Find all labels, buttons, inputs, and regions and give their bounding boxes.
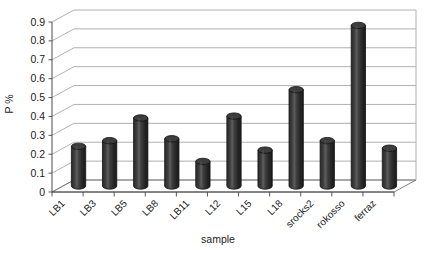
bar xyxy=(351,22,365,189)
bar-top-cap xyxy=(102,137,116,143)
x-tick-label: L12 xyxy=(203,197,223,217)
bar xyxy=(289,86,303,189)
x-tick-label: rokosso xyxy=(314,197,347,230)
bar-top-cap xyxy=(382,145,396,151)
bar-body xyxy=(102,141,116,190)
y-axis xyxy=(49,22,53,192)
x-tick-label: LB1 xyxy=(47,197,68,218)
bar-highlight xyxy=(76,146,78,186)
x-tick-label: ferraz xyxy=(352,198,378,224)
x-tick-labels: LB1LB3LB5LB8LB11L12L15L18srocks2rokossof… xyxy=(47,197,378,230)
bar-highlight xyxy=(107,141,109,186)
y-tick-label: 0.4 xyxy=(30,110,45,122)
bar-highlight xyxy=(200,161,202,186)
bar-top-cap xyxy=(258,147,272,153)
x-tick-label: L15 xyxy=(234,197,254,217)
bars xyxy=(71,22,396,189)
bar-body xyxy=(227,116,241,189)
bar-body xyxy=(351,25,365,189)
bar-body xyxy=(289,90,303,190)
bar-highlight xyxy=(231,116,233,186)
x-tick-label: LB8 xyxy=(140,197,161,218)
bar-top-cap xyxy=(196,158,210,164)
bar-highlight xyxy=(293,90,295,186)
y-tick-label: 0.6 xyxy=(30,72,45,84)
bar-highlight xyxy=(262,150,264,186)
bar-body xyxy=(382,148,396,189)
bar xyxy=(320,137,334,189)
y-tick-label: 0.3 xyxy=(30,129,45,141)
bar-top-cap xyxy=(289,86,303,92)
bar xyxy=(382,145,396,189)
gridline xyxy=(52,10,416,22)
y-tick-label: 0.5 xyxy=(30,91,45,103)
bar-body xyxy=(71,146,85,189)
bar-highlight xyxy=(387,148,389,186)
y-tick-label: 0.9 xyxy=(30,16,45,28)
bar-highlight xyxy=(169,139,171,186)
y-tick-label: 0 xyxy=(39,186,45,198)
x-tick-label: LB11 xyxy=(168,197,192,221)
y-tick-label: 0.2 xyxy=(30,148,45,160)
x-tick-label: srocks2 xyxy=(284,197,316,229)
x-tick-label: L18 xyxy=(265,197,285,217)
bar xyxy=(134,115,148,189)
bar-highlight xyxy=(356,25,358,186)
y-tick-label: 0.7 xyxy=(30,53,45,65)
bar-top-cap xyxy=(71,143,85,149)
y-tick-label: 0.1 xyxy=(30,167,45,179)
bar-top-cap xyxy=(134,115,148,121)
bar-body xyxy=(165,139,179,189)
bar-top-cap xyxy=(351,22,365,28)
bar-body xyxy=(134,118,148,189)
bar-chart: 0.90.80.70.60.50.40.30.20.10 LB1LB3LB5LB… xyxy=(0,0,433,254)
bar xyxy=(196,158,210,189)
bar-highlight xyxy=(324,141,326,186)
bar-body xyxy=(320,141,334,190)
x-axis-title: sample xyxy=(201,233,235,245)
x-axis xyxy=(52,192,394,197)
x-tick-label: LB3 xyxy=(78,197,99,218)
bar-top-cap xyxy=(227,113,241,119)
bar-body xyxy=(258,150,272,189)
y-tick-label: 0.8 xyxy=(30,34,45,46)
bar xyxy=(165,136,179,190)
bar-body xyxy=(196,161,210,189)
bar xyxy=(102,137,116,189)
bar xyxy=(258,147,272,189)
y-axis-title: P % xyxy=(3,94,15,113)
bar-highlight xyxy=(138,118,140,186)
bar-top-cap xyxy=(320,137,334,143)
bar xyxy=(71,143,85,189)
chart-canvas: 0.90.80.70.60.50.40.30.20.10 LB1LB3LB5LB… xyxy=(0,0,433,254)
x-tick-label: LB5 xyxy=(109,197,130,218)
bar xyxy=(227,113,241,189)
y-tick-labels: 0.90.80.70.60.50.40.30.20.10 xyxy=(30,16,45,198)
bar-top-cap xyxy=(165,136,179,142)
